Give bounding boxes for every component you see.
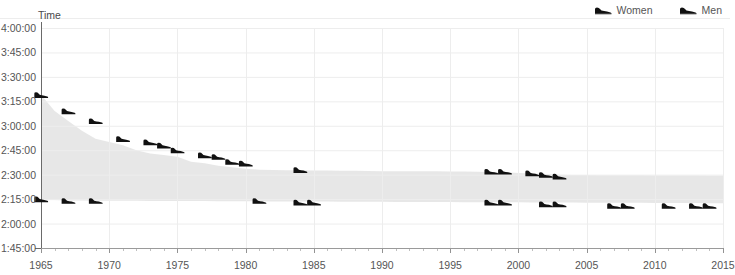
x-tick-label: 1985 <box>302 260 325 271</box>
x-tick-label: 1965 <box>29 260 52 271</box>
x-tick-label: 1970 <box>98 260 121 271</box>
x-tick-label: 2010 <box>643 260 666 271</box>
x-tick-label: 1995 <box>439 260 462 271</box>
x-tick-label: 1980 <box>234 260 257 271</box>
x-tick-label: 1975 <box>166 260 189 271</box>
x-tick-label: 1990 <box>370 260 393 271</box>
x-tick-label: 2000 <box>507 260 530 271</box>
x-tick-label: 2015 <box>711 260 734 271</box>
x-tick-label: 2005 <box>575 260 598 271</box>
